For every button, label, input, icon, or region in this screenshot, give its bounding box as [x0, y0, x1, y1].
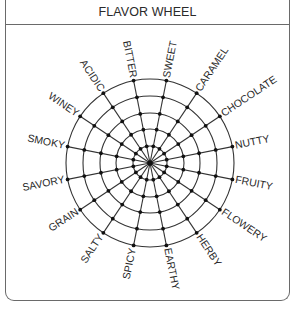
wheel-dot: [82, 148, 86, 152]
wheel-dot: [176, 120, 180, 124]
flavor-label-spicy: SPICY: [120, 247, 138, 280]
wheel-dot: [66, 177, 70, 181]
wheel-dot: [115, 154, 119, 158]
wheel-dot: [155, 194, 159, 198]
wheel-dot: [134, 171, 138, 175]
wheel-dot: [120, 120, 124, 124]
wheel-dot: [167, 189, 171, 193]
wheel-dot: [164, 79, 168, 83]
wheel-dot: [161, 227, 165, 231]
wheel-dot: [218, 114, 222, 118]
wheel-dot: [135, 95, 139, 99]
wheel-intersection-dots: [66, 79, 235, 248]
wheel-dot: [129, 133, 133, 137]
wheel-dot: [111, 217, 115, 221]
wheel-dot: [214, 148, 218, 152]
wheel-dot: [176, 203, 180, 207]
wheel-dot: [165, 164, 169, 168]
wheel-dot: [214, 174, 218, 178]
wheel-dot: [120, 180, 124, 184]
wheel-dot: [195, 231, 199, 235]
wheel-dot: [158, 210, 162, 214]
wheel-dot: [138, 210, 142, 214]
wheel-dot: [131, 164, 135, 168]
wheel-center-dot: [147, 160, 152, 165]
wheel-dot: [101, 91, 105, 95]
flavor-label-nutty: NUTTY: [234, 132, 271, 151]
flavor-label-earthy: EARTHY: [162, 247, 182, 291]
wheel-dot: [132, 243, 136, 247]
flavor-label-smoky: SMOKY: [27, 132, 67, 151]
wheel-dot: [132, 79, 136, 83]
flavor-label-fruity: FRUITY: [234, 173, 274, 192]
wheel-dot: [190, 189, 194, 193]
wheel-dot: [82, 174, 86, 178]
wheel-dot: [176, 142, 180, 146]
wheel-dot: [145, 178, 149, 182]
wheel-dot: [78, 208, 82, 212]
wheel-dot: [162, 152, 166, 156]
wheel-dot: [120, 142, 124, 146]
wheel-dot: [139, 175, 143, 179]
flavor-label-savory: SAVORY: [21, 173, 65, 193]
wheel-dot: [158, 175, 162, 179]
wheel-dot: [164, 243, 168, 247]
wheel-dot: [181, 168, 185, 172]
wheel-dot: [99, 171, 103, 175]
wheel-dot: [204, 124, 208, 128]
wheel-dot: [151, 144, 155, 148]
wheel-dot: [120, 203, 124, 207]
wheel-dot: [145, 144, 149, 148]
wheel-dot: [204, 198, 208, 202]
wheel-dot: [78, 114, 82, 118]
flavor-label-flowery: FLOWERY: [220, 205, 270, 244]
wheel-dot: [197, 151, 201, 155]
flavor-label-bitter: BITTER: [121, 40, 140, 79]
wheel-dot: [111, 105, 115, 109]
wheel-dot: [185, 217, 189, 221]
flavor-label-grain: GRAIN: [46, 205, 80, 233]
wheel-dot: [165, 158, 169, 162]
wheel-dot: [158, 112, 162, 116]
wheel-dot: [218, 208, 222, 212]
wheel-dot: [66, 145, 70, 149]
wheel-dot: [141, 194, 145, 198]
flavor-label-winey: WINEY: [46, 90, 81, 119]
wheel-dot: [107, 189, 111, 193]
wheel-dot: [167, 133, 171, 137]
wheel-dot: [190, 133, 194, 137]
flavor-label-sweet: SWEET: [160, 39, 179, 79]
flavor-wheel-diagram: BITTERSWEETCARAMELCHOCOLATENUTTYFRUITYFL…: [0, 0, 294, 313]
wheel-dot: [138, 112, 142, 116]
wheel-dot: [162, 171, 166, 175]
wheel-dot: [155, 128, 159, 132]
wheel-dot: [131, 158, 135, 162]
flavor-label-herby: HERBY: [194, 231, 224, 268]
flavor-label-caramel: CARAMEL: [192, 44, 230, 93]
wheel-dot: [195, 91, 199, 95]
wheel-dot: [151, 178, 155, 182]
flavor-label-chocolate: CHOCOLATE: [218, 73, 278, 119]
wheel-dot: [176, 180, 180, 184]
wheel-dot: [185, 105, 189, 109]
wheel-dot: [134, 152, 138, 156]
wheel-dot: [92, 198, 96, 202]
wheel-dot: [92, 124, 96, 128]
wheel-dot: [230, 177, 234, 181]
wheel-dot: [141, 128, 145, 132]
wheel-dot: [139, 147, 143, 151]
wheel-dot: [158, 147, 162, 151]
wheel-dot: [161, 95, 165, 99]
flavor-label-salty: SALTY: [78, 231, 106, 265]
flavor-label-acidic: ACIDIC: [78, 57, 108, 94]
wheel-dot: [101, 231, 105, 235]
wheel-dot: [181, 154, 185, 158]
wheel-dot: [107, 133, 111, 137]
wheel-dot: [135, 227, 139, 231]
wheel-dot: [129, 189, 133, 193]
wheel-dot: [99, 151, 103, 155]
wheel-dot: [230, 145, 234, 149]
wheel-dot: [197, 171, 201, 175]
wheel-dot: [115, 168, 119, 172]
